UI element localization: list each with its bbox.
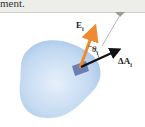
area-vector-label: ΔAi: [118, 56, 132, 68]
closed-surface: [20, 40, 101, 118]
callout-pointer-icon: [115, 12, 125, 17]
field-vector-label: Ei: [76, 20, 84, 32]
angle-label: θi: [92, 44, 98, 56]
callout-line: [102, 15, 120, 46]
